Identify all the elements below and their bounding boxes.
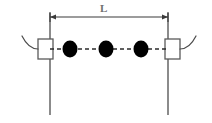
bead-1 [63,41,78,58]
right-support-group [165,13,196,115]
right-flexure-curve [180,36,196,49]
dimension-arrow-right-icon [162,15,168,20]
dimension-arrow-left-icon [50,15,56,20]
left-flexure-curve [22,36,38,49]
span-dimension-line [50,12,168,22]
right-bearing-box [165,39,180,59]
schematic-svg [0,0,212,123]
bead-2 [99,41,114,58]
diagram-canvas: L [0,0,212,123]
span-dimension-label: L [100,3,107,14]
bead-3 [134,41,149,58]
left-support-group [22,13,53,115]
